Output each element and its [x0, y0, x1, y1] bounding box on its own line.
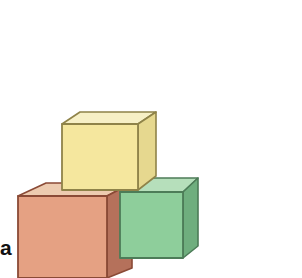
orange-block-front-face — [18, 196, 107, 278]
blocks-illustration — [0, 0, 302, 278]
green-block-side-face — [183, 178, 198, 258]
figure-panel-a: a — [0, 0, 302, 278]
green-block-front-face — [120, 192, 183, 258]
orange-block — [18, 183, 132, 278]
panel-label: a — [0, 236, 16, 260]
yellow-block-front-face — [62, 124, 138, 190]
yellow-block-side-face — [138, 112, 156, 190]
yellow-block — [62, 112, 156, 190]
